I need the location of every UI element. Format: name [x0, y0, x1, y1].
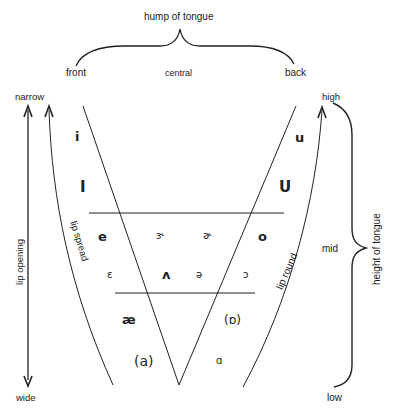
vowel-epsilon: ɛ	[107, 270, 112, 280]
vowel-turned-script-a: (ɒ)	[224, 314, 241, 326]
vowel-i: i	[75, 130, 79, 143]
vowel-schwa: ə	[196, 270, 202, 280]
hump-of-tongue-label: hump of tongue	[144, 12, 214, 22]
central-label: central	[165, 69, 192, 78]
narrow-label: narrow	[15, 92, 44, 102]
back-boundary-line	[179, 106, 296, 385]
lip-round-curve	[243, 110, 322, 387]
vowel-script-a: ɑ	[216, 356, 222, 366]
vowel-I: I	[80, 180, 86, 195]
vowel-ae: æ	[122, 313, 136, 326]
vowel-e: e	[98, 230, 107, 243]
height-of-tongue-label: height of tongue	[372, 213, 382, 285]
lip-opening-label: lip opening	[15, 239, 25, 285]
front-label: front	[66, 68, 86, 78]
vowel-er-stressed: ɝ	[156, 231, 164, 241]
vowel-open-o: ɔ	[243, 270, 249, 280]
mid-label: mid	[322, 244, 338, 254]
low-label: low	[327, 393, 342, 403]
back-label: back	[285, 68, 306, 78]
high-label: high	[322, 92, 340, 102]
vowel-U: U	[279, 180, 291, 195]
front-boundary-line	[83, 106, 179, 385]
vowel-o: o	[258, 230, 267, 243]
vowel-u: u	[295, 131, 304, 144]
vowel-er-unstressed: ɚ	[203, 231, 211, 241]
wide-label: wide	[16, 393, 36, 403]
vowel-wedge: ʌ	[162, 268, 170, 281]
top-brace	[76, 29, 294, 66]
vowel-a: (a)	[134, 354, 154, 368]
vowel-diagram-lines	[0, 0, 400, 418]
